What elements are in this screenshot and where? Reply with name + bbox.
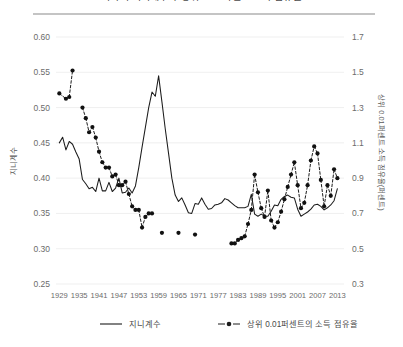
chart-figure: 미국의 지니계수와 상위 0.01퍼센트 소득 점유율 0.250.300.35…: [0, 0, 403, 347]
chart-canvas: 0.250.300.350.400.450.500.550.60 0.30.50…: [0, 0, 403, 347]
gridlines: [56, 37, 344, 284]
series-marker-top-share: [279, 210, 283, 214]
series-segment-top-share: [321, 180, 324, 206]
series-marker-top-share: [176, 231, 180, 235]
series-marker-top-share: [246, 222, 250, 226]
series-2: [57, 68, 339, 245]
y-tick-label: 0.50: [33, 103, 50, 113]
series-marker-top-share: [143, 215, 147, 219]
x-tick-label: 1965: [170, 291, 187, 300]
series-marker-top-share: [249, 208, 253, 212]
legend-item-2[interactable]: 상위 0.01퍼센트의 소득 점유율: [218, 319, 358, 329]
series-marker-top-share: [107, 165, 111, 169]
chart-title-clipped: 미국의 지니계수와 상위 0.01퍼센트 소득 점유율: [0, 0, 403, 3]
series-marker-top-share: [259, 206, 263, 210]
series-path-gini: [59, 76, 337, 216]
series-marker-top-share: [160, 231, 164, 235]
series-marker-top-share: [94, 135, 98, 139]
y2-tick-label: 0.9: [352, 173, 364, 183]
y2-tick-label: 0.7: [352, 208, 364, 218]
series-marker-top-share: [322, 204, 326, 208]
series-marker-top-share: [325, 183, 329, 187]
y-tick-label: 0.55: [33, 67, 50, 77]
series-marker-top-share: [123, 180, 127, 184]
x-tick-label: 1953: [130, 291, 147, 300]
y2-axis-title: 상위 0.01퍼센트 소득 점유율(퍼센트): [377, 94, 386, 210]
series-marker-top-share: [137, 208, 141, 212]
x-tick-label: 1935: [71, 291, 88, 300]
series-marker-top-share: [296, 183, 300, 187]
y-axis-tick-labels: 0.250.300.350.400.450.500.550.60: [33, 32, 50, 289]
series-segment-top-share: [318, 153, 321, 179]
series-marker-top-share: [312, 144, 316, 148]
series-marker-top-share: [289, 173, 293, 177]
x-tick-label: 1929: [51, 291, 68, 300]
x-tick-label: 2013: [329, 291, 346, 300]
series-segment-top-share: [96, 138, 99, 152]
y-tick-label: 0.45: [33, 138, 50, 148]
series-segment-top-share: [69, 71, 72, 97]
series-marker-top-share: [130, 204, 134, 208]
x-tick-label: 1947: [110, 291, 127, 300]
series-segment-top-share: [324, 185, 327, 206]
series-marker-top-share: [329, 194, 333, 198]
series-segment-top-share: [311, 146, 314, 160]
series-layer: [57, 68, 339, 245]
series-segment-top-share: [86, 118, 89, 132]
series-marker-top-share: [113, 173, 117, 177]
series-marker-top-share: [120, 183, 124, 187]
x-tick-label: 1977: [210, 291, 227, 300]
y2-tick-label: 1.5: [352, 67, 364, 77]
series-marker-top-share: [84, 116, 88, 120]
chart-legend: 지니계수상위 0.01퍼센트의 소득 점유율: [100, 319, 358, 329]
series-marker-top-share: [90, 125, 94, 129]
legend-item-1[interactable]: 지니계수: [100, 319, 161, 329]
y-tick-label: 0.30: [33, 244, 50, 254]
legend-label: 지니계수: [129, 319, 161, 329]
series-marker-top-share: [150, 211, 154, 215]
x-tick-label: 1971: [190, 291, 207, 300]
legend-label: 상위 0.01퍼센트의 소득 점유율: [247, 319, 358, 329]
y-tick-label: 0.35: [33, 208, 50, 218]
x-tick-label: 1959: [150, 291, 167, 300]
series-segment-top-share: [258, 192, 261, 208]
series-marker-top-share: [302, 201, 306, 205]
series-marker-top-share: [309, 158, 313, 162]
series-marker-top-share: [243, 234, 247, 238]
legend-swatch-marker: [227, 322, 232, 327]
y-tick-label: 0.60: [33, 32, 50, 42]
x-tick-label: 2001: [289, 291, 306, 300]
series-marker-top-share: [193, 233, 197, 237]
series-marker-top-share: [70, 68, 74, 72]
y2-tick-label: 1.1: [352, 138, 364, 148]
x-tick-label: 1983: [230, 291, 247, 300]
series-segment-top-share: [331, 169, 334, 195]
series-marker-top-share: [100, 160, 104, 164]
series-segment-top-share: [255, 175, 258, 193]
chart-title: 미국의 지니계수와 상위 0.01퍼센트 소득 점유율: [0, 0, 403, 3]
series-marker-top-share: [80, 105, 84, 109]
x-axis-tick-labels: 1929193519411947195319591965197119771983…: [51, 291, 346, 300]
series-marker-top-share: [276, 220, 280, 224]
series-marker-top-share: [253, 173, 257, 177]
y-tick-label: 0.40: [33, 173, 50, 183]
series-segment-top-share: [265, 190, 268, 216]
series-marker-top-share: [286, 185, 290, 189]
y2-tick-label: 1.3: [352, 103, 364, 113]
series-marker-top-share: [127, 192, 131, 196]
series-marker-top-share: [292, 160, 296, 164]
y2-tick-label: 0.3: [352, 279, 364, 289]
x-tick-label: 2007: [309, 291, 326, 300]
series-marker-top-share: [256, 190, 260, 194]
series-segment-top-share: [139, 210, 142, 228]
y2-axis-tick-labels: 0.30.50.70.91.11.31.51.7: [352, 32, 364, 289]
series-marker-top-share: [140, 225, 144, 229]
series-segment-top-share: [248, 210, 251, 224]
series-marker-top-share: [67, 95, 71, 99]
series-marker-top-share: [299, 206, 303, 210]
series-marker-top-share: [57, 91, 61, 95]
y-axis-title: 지니계수: [9, 147, 18, 175]
y2-tick-label: 1.7: [352, 32, 364, 42]
series-segment-top-share: [294, 162, 297, 185]
series-marker-top-share: [269, 218, 273, 222]
